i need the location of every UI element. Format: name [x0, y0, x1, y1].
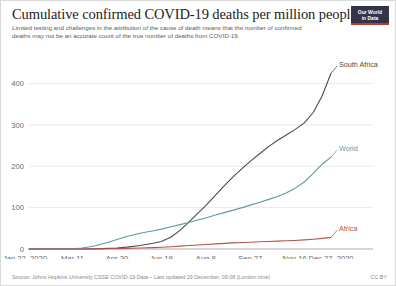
- series-end-labels: South AfricaWorldAfrica: [331, 60, 378, 237]
- series-line[interactable]: [29, 237, 331, 249]
- x-tick-label: Dec 27, 2020: [308, 254, 353, 259]
- series-label-world[interactable]: World: [339, 144, 358, 153]
- y-axis-tick-labels: 0100200300400: [11, 79, 24, 253]
- page-title: Cumulative confirmed COVID-19 deaths per…: [12, 6, 342, 22]
- chart-header: Cumulative confirmed COVID-19 deaths per…: [12, 6, 342, 41]
- source-note: Source: Johns Hopkins University CSSE CO…: [12, 274, 270, 280]
- y-tick-label: 200: [11, 162, 24, 171]
- chart-subtitle: Limited testing and challenges in the at…: [12, 24, 312, 41]
- y-tick-label: 300: [11, 121, 24, 130]
- y-tick-label: 100: [11, 203, 24, 212]
- logo-line-2: in Data: [362, 15, 379, 21]
- series-label-leader: [331, 66, 337, 73]
- series-label-leader: [331, 230, 337, 237]
- x-tick-label: Jun 19: [150, 254, 173, 259]
- plot-area: 0100200300400 South AfricaWorldAfrica Ja…: [1, 41, 396, 259]
- license-note[interactable]: CC BY: [371, 274, 387, 280]
- x-tick-label: Mar 11: [61, 254, 84, 259]
- series-label-africa[interactable]: Africa: [339, 224, 357, 233]
- x-tick-label: Nov 16: [283, 254, 307, 259]
- gridlines: [29, 84, 373, 249]
- y-tick-label: 400: [11, 79, 24, 88]
- series-line[interactable]: [29, 73, 331, 249]
- chart-card: Cumulative confirmed COVID-19 deaths per…: [0, 0, 396, 286]
- series-label-leader: [331, 150, 337, 157]
- chart-footer: Source: Johns Hopkins University CSSE CO…: [12, 274, 387, 280]
- y-tick-label: 0: [20, 245, 24, 254]
- x-tick-label: Apr 30: [106, 254, 128, 259]
- line-chart-svg: 0100200300400 South AfricaWorldAfrica Ja…: [1, 41, 396, 259]
- series-label-south-africa[interactable]: South Africa: [339, 60, 378, 69]
- series-line[interactable]: [29, 157, 331, 249]
- x-tick-label: Aug 8: [196, 254, 216, 259]
- x-axis-tick-labels: Jan 22, 2020Mar 11Apr 30Jun 19Aug 8Sep 2…: [3, 254, 354, 259]
- x-tick-label: Jan 22, 2020: [3, 254, 47, 259]
- our-world-in-data-logo[interactable]: Our World in Data: [351, 6, 389, 25]
- series-lines: [29, 73, 331, 249]
- x-tick-label: Sep 27: [238, 254, 262, 259]
